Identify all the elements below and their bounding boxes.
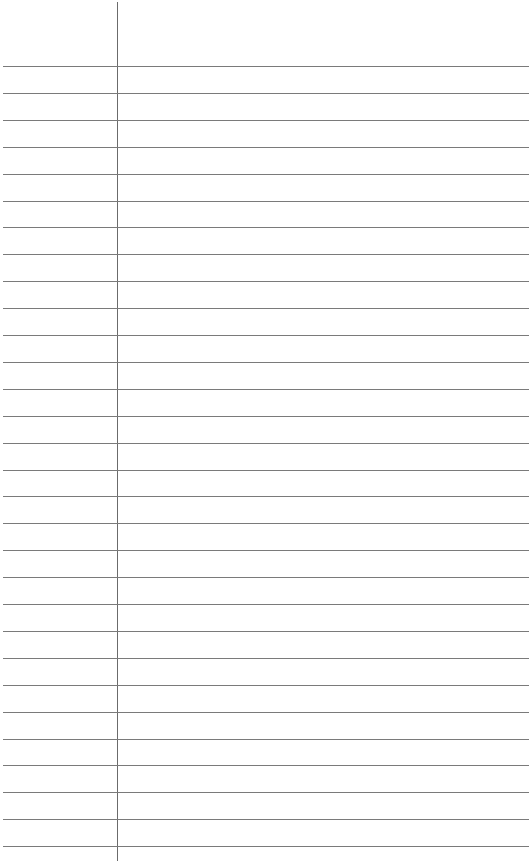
ruled-line: [3, 523, 529, 524]
ruled-line: [3, 577, 529, 578]
ruled-line: [3, 739, 529, 740]
ruled-line: [3, 685, 529, 686]
lined-paper: [0, 0, 531, 864]
ruled-line: [3, 308, 529, 309]
ruled-line: [3, 254, 529, 255]
ruled-line: [3, 792, 529, 793]
margin-line: [117, 2, 118, 861]
ruled-line: [3, 765, 529, 766]
ruled-line: [3, 362, 529, 363]
ruled-line: [3, 227, 529, 228]
ruled-line: [3, 66, 529, 67]
ruled-line: [3, 174, 529, 175]
ruled-line: [3, 604, 529, 605]
ruled-line: [3, 819, 529, 820]
ruled-line: [3, 93, 529, 94]
ruled-line: [3, 846, 529, 847]
ruled-line: [3, 389, 529, 390]
ruled-line: [3, 335, 529, 336]
ruled-line: [3, 496, 529, 497]
ruled-line: [3, 281, 529, 282]
ruled-line: [3, 631, 529, 632]
ruled-line: [3, 712, 529, 713]
ruled-line: [3, 416, 529, 417]
ruled-line: [3, 147, 529, 148]
ruled-line: [3, 120, 529, 121]
ruled-line: [3, 201, 529, 202]
ruled-line: [3, 550, 529, 551]
ruled-line: [3, 443, 529, 444]
ruled-line: [3, 470, 529, 471]
ruled-line: [3, 658, 529, 659]
